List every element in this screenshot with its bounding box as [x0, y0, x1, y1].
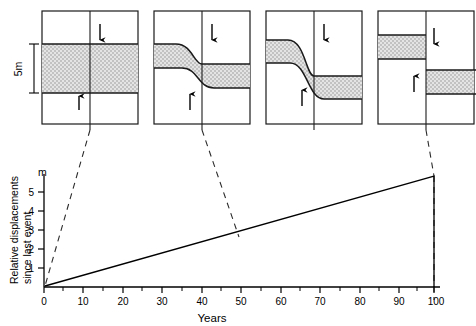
x-tick-label-50: 50: [235, 296, 247, 307]
x-tick-label-60: 60: [275, 296, 287, 307]
x-tick-label-90: 90: [393, 296, 405, 307]
leader-2: [202, 130, 239, 237]
panel-4: [378, 11, 476, 130]
x-axis-label: Years: [198, 312, 227, 324]
chart: m 1 2 3 4 5: [8, 166, 445, 324]
panel-3: [266, 11, 362, 130]
x-tick-label-70: 70: [314, 296, 326, 307]
panel-1: [42, 11, 138, 130]
leader-1: [45, 130, 90, 286]
figure-root: 5m: [0, 0, 476, 326]
panel-2: [154, 11, 250, 130]
y-axis-label-line1: Relative displacements: [8, 176, 20, 284]
y-axis-label: Relative displacements: [8, 176, 20, 284]
x-tick-label-10: 10: [77, 296, 89, 307]
x-tick-label-20: 20: [117, 296, 129, 307]
leader-3: [426, 130, 434, 176]
leader-lines: [45, 130, 434, 300]
scale-bar: 5m: [12, 44, 39, 93]
x-tick-label-100: 100: [428, 296, 445, 307]
y-axis-label-2: since last event: [21, 212, 33, 284]
y-tick-label-5: 5: [28, 187, 34, 198]
y-axis-label-line2: since last event: [21, 212, 33, 284]
displacement-series: [45, 176, 434, 287]
x-tick-label-80: 80: [354, 296, 366, 307]
x-ticks: 0 10 20 30 40 50 60 70 80 90 100: [41, 287, 445, 307]
x-tick-label-0: 0: [41, 296, 47, 307]
scale-bar-label: 5m: [12, 61, 24, 76]
y-axis-unit: m: [38, 166, 47, 178]
x-tick-label-30: 30: [156, 296, 168, 307]
x-tick-label-40: 40: [196, 296, 208, 307]
